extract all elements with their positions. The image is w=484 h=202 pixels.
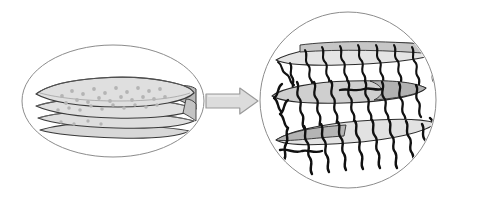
lamella-dot	[60, 94, 64, 98]
lamella-dot	[125, 90, 129, 94]
lamella-dot	[103, 91, 107, 95]
lamella-dot	[59, 120, 62, 123]
lamella-dot	[86, 100, 90, 104]
lamella-dot	[56, 108, 60, 112]
lamella-dot	[99, 122, 102, 125]
lamella-dot	[133, 103, 137, 107]
lamella-dot	[64, 101, 68, 105]
lamella-dot	[86, 119, 89, 122]
lamella-dot	[75, 98, 79, 102]
lamella-dot	[163, 95, 167, 99]
transformation-arrow	[206, 88, 258, 114]
lamella-dot	[122, 106, 126, 110]
figure-container: Ordered lamellar stack transforms into D…	[0, 0, 484, 202]
lamella-dot	[92, 87, 96, 91]
lamella-dot	[89, 104, 93, 108]
lamella-dot	[130, 98, 134, 102]
lamella-dot	[72, 122, 75, 125]
lamella-dot	[152, 97, 156, 101]
right-panel-group	[260, 12, 438, 188]
lamella-dot	[155, 103, 159, 107]
diagram-canvas	[0, 0, 484, 202]
lamella-dot	[144, 105, 148, 109]
lamella-dot	[108, 99, 112, 103]
lamella-dot	[136, 86, 140, 90]
lamella-dot	[111, 103, 115, 107]
lamella-dot	[81, 92, 85, 96]
lamella-dot	[100, 107, 104, 111]
lamella-dot	[147, 89, 151, 93]
lamella-dot	[158, 87, 162, 91]
left-panel-group	[22, 45, 204, 157]
lamella-dot	[67, 106, 71, 110]
left-stack-clip	[36, 77, 196, 138]
lamella-dot	[114, 86, 118, 90]
lamella-dot	[141, 95, 145, 99]
lamella-dot	[97, 96, 101, 100]
lamella-dot	[78, 108, 82, 112]
lamella-dot	[119, 95, 123, 99]
lamella-dot	[70, 89, 74, 93]
